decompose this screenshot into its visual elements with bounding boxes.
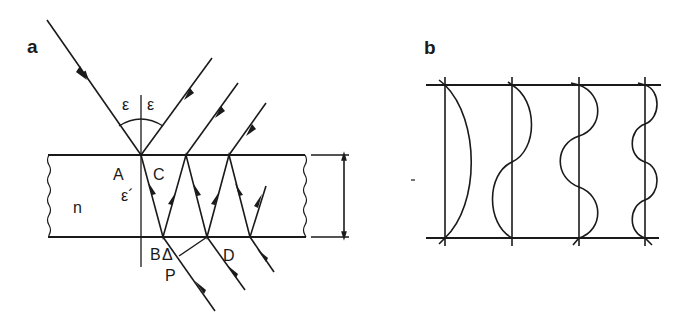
- arrow-head-transmitted-1: [195, 281, 206, 294]
- point-c-label: C: [153, 166, 165, 183]
- angle-reflected-label: ε: [147, 96, 154, 113]
- mode-1-standing-wave: [439, 80, 471, 244]
- incident-ray: [47, 20, 141, 155]
- internal-ray-tail: [250, 186, 266, 237]
- point-p-label: P: [165, 267, 176, 284]
- arrow-head-transmitted-2: [227, 265, 238, 278]
- point-d-label: D: [223, 247, 235, 264]
- reflected-ray-2: [186, 83, 238, 155]
- path-difference-perpendicular: [179, 237, 207, 256]
- slab-right-wavy-edge: [304, 155, 307, 237]
- panel-a: a: [27, 20, 349, 311]
- medium-index-label: n: [73, 199, 82, 216]
- arrow-head-internal-2: [168, 192, 176, 205]
- slab-left-wavy-edge: [48, 155, 51, 237]
- point-b-label: B: [150, 246, 161, 263]
- angle-refracted-label: ε´: [121, 187, 133, 204]
- arrow-head-incident: [76, 66, 87, 80]
- angle-incident-label: ε: [122, 96, 129, 113]
- panel-b-label: b: [424, 37, 436, 58]
- panel-a-label: a: [27, 36, 38, 57]
- figure-canvas: a: [0, 0, 688, 332]
- panel-b: b: [411, 37, 661, 246]
- delta-label: Δ: [162, 246, 173, 263]
- arrow-head-transmitted-3: [257, 249, 268, 262]
- arrow-head-internal-5: [235, 183, 243, 196]
- reflected-ray-3: [229, 103, 266, 155]
- point-a-label: A: [113, 166, 124, 183]
